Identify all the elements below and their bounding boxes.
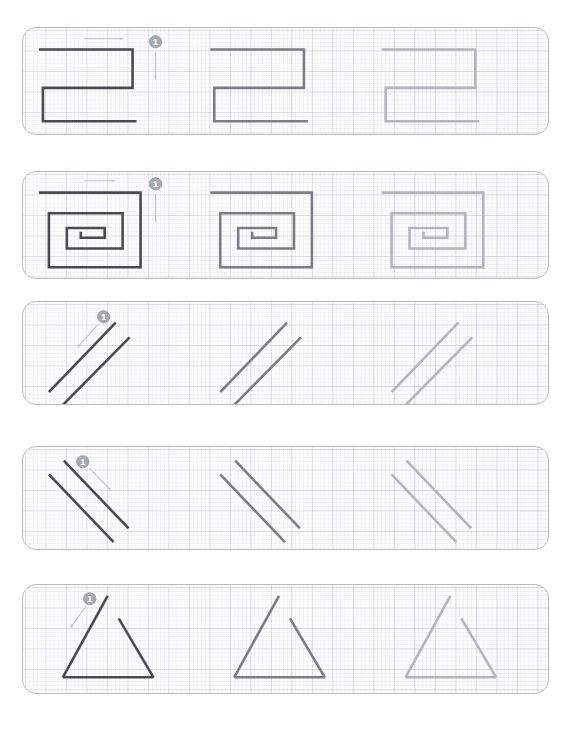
row-drawing-surface: 1 <box>23 172 548 278</box>
stroke-line-1-practice-medium <box>220 323 287 393</box>
stroke-line-1-practice-faint <box>392 474 457 542</box>
triangle-right-practice-faint <box>461 618 496 677</box>
shape-rectangular-spiral-practice-medium <box>210 193 312 268</box>
practice-row-1[interactable]: 1 <box>22 27 549 135</box>
stroke-line-2-practice-faint <box>406 337 473 404</box>
step-marker-label: 1 <box>101 312 106 322</box>
stroke-line-2-traced-model <box>63 337 130 404</box>
arrow-head-icon <box>112 179 115 182</box>
direction-arrow-down-right-icon <box>90 469 111 491</box>
stroke-line-2-practice-medium <box>235 461 300 529</box>
row-drawing-surface: 1 <box>23 302 548 404</box>
step-marker-label: 1 <box>87 594 92 604</box>
stroke-line-2-practice-medium <box>234 337 301 404</box>
triangle-left-practice-faint <box>406 596 451 677</box>
arrow-head-icon <box>120 37 123 40</box>
shape-zigzag-square-wave-traced-model <box>39 50 137 122</box>
worksheet-page: 11111 <box>0 0 571 733</box>
shape-zigzag-square-wave-practice-faint <box>382 50 480 122</box>
stroke-line-1-practice-medium <box>220 474 285 542</box>
arrow-head-icon <box>154 76 157 79</box>
shape-rectangular-spiral-practice-faint <box>382 193 484 268</box>
triangle-right-traced-model <box>119 618 154 677</box>
shape-zigzag-square-wave-practice-medium <box>210 50 308 122</box>
triangle-left-practice-medium <box>234 596 279 677</box>
stroke-line-1-traced-model <box>49 474 114 542</box>
practice-row-3[interactable]: 1 <box>22 301 549 405</box>
stroke-line-1-traced-model <box>49 323 116 393</box>
step-number-marker: 1 <box>149 36 161 48</box>
step-marker-label: 1 <box>80 457 85 467</box>
row-drawing-surface: 1 <box>23 585 548 693</box>
stroke-line-2-practice-faint <box>407 461 472 529</box>
stroke-line-2-traced-model <box>64 461 129 529</box>
step-number-marker: 1 <box>98 311 110 323</box>
practice-row-5[interactable]: 1 <box>22 584 549 694</box>
shape-rectangular-spiral-traced-model <box>39 193 141 268</box>
triangle-right-practice-medium <box>290 618 325 677</box>
arrow-head-icon <box>154 219 157 222</box>
step-marker-label: 1 <box>153 37 158 47</box>
direction-arrow-down-left-icon <box>71 607 86 628</box>
stroke-line-1-practice-faint <box>392 323 459 393</box>
step-number-marker: 1 <box>77 456 89 468</box>
step-marker-label: 1 <box>153 179 158 189</box>
row-drawing-surface: 1 <box>23 447 548 549</box>
row-drawing-surface: 1 <box>23 28 548 134</box>
step-number-marker: 1 <box>84 593 96 605</box>
practice-row-4[interactable]: 1 <box>22 446 549 550</box>
practice-row-2[interactable]: 1 <box>22 171 549 279</box>
step-number-marker: 1 <box>149 178 161 190</box>
